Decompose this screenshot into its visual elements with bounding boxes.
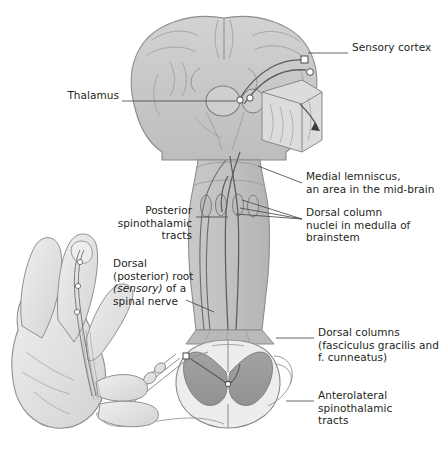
label-posterior-spinothalamic-tracts: Posterior spinothalamic tracts [84, 204, 192, 242]
leader-medial-lemniscus [258, 166, 302, 183]
spinal-cord-cross-section [176, 330, 292, 428]
label-dorsal-columns: Dorsal columns (fasciculus gracilis and … [318, 326, 448, 364]
label-medial-lemniscus: Medial lemniscus, an area in the mid-bra… [306, 170, 446, 195]
sensory-cortex-block-inset [262, 80, 322, 152]
nucleus-cuneatus-right [248, 195, 259, 217]
label-sensory-cortex: Sensory cortex [352, 41, 446, 54]
brainstem [189, 152, 270, 330]
label-dorsal-root: Dorsal (posterior) root (sensory) of a s… [113, 257, 197, 307]
diagram-canvas: Sensory cortex Thalamus Medial lemniscus… [0, 0, 448, 452]
label-dorsal-column-nuclei: Dorsal column nuclei in medulla of brain… [306, 206, 446, 244]
label-dorsal-root-text: Dorsal (posterior) root (sensory) of a s… [113, 257, 194, 307]
label-thalamus: Thalamus [15, 89, 119, 102]
label-anterolateral-spinothalamic-tracts: Anterolateral spinothalamic tracts [318, 389, 442, 427]
